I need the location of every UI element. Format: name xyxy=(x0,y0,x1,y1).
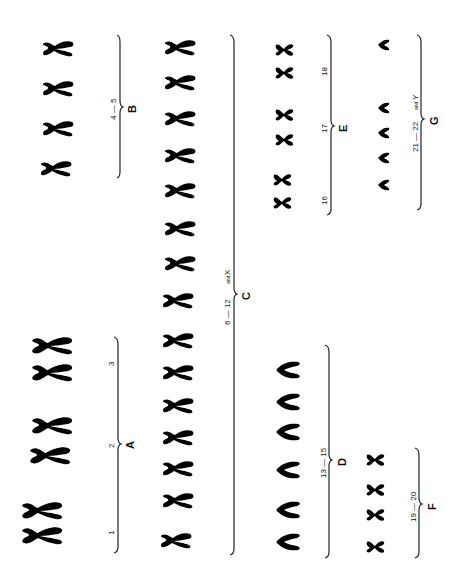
label-e-letter: E xyxy=(337,125,349,132)
chromosome-15b xyxy=(277,394,300,411)
label-g-letter: G xyxy=(428,116,440,125)
label-c-x: X xyxy=(223,269,232,275)
label-g-and: and xyxy=(413,101,419,110)
chromosome-4b xyxy=(43,81,74,96)
chromosome-3a xyxy=(32,337,72,354)
chromosome-c11 xyxy=(163,398,194,413)
chromosome-1a xyxy=(22,502,62,519)
label-e-16: 16 xyxy=(320,196,329,205)
chromosome-c12 xyxy=(163,430,194,445)
label-a-3: 3 xyxy=(107,361,116,366)
chromosome-15a xyxy=(277,362,300,379)
chromosome-19a xyxy=(367,509,385,521)
chromosome-20b xyxy=(367,484,385,496)
chromosome-c5 xyxy=(165,183,196,198)
label-c-letter: C xyxy=(240,292,252,300)
label-e-18: 18 xyxy=(320,67,329,76)
chromosome-c10 xyxy=(163,365,194,380)
label-g-y: Y xyxy=(411,94,420,100)
chromosome-18b xyxy=(276,67,294,79)
chromosome-c3 xyxy=(165,111,196,126)
chromosome-13a xyxy=(277,502,300,519)
group-a-chromosomes xyxy=(22,337,72,544)
chromosome-c2 xyxy=(165,75,196,90)
chromosome-16b xyxy=(274,197,292,209)
label-e-17: 17 xyxy=(320,124,329,133)
chromosome-1b xyxy=(22,527,62,544)
group-f-chromosomes xyxy=(367,454,385,553)
label-a-letter: A xyxy=(124,441,136,449)
chromosome-2b xyxy=(30,447,70,464)
chromosome-4a xyxy=(43,41,74,56)
chromosome-21b xyxy=(378,180,389,191)
chromosome-5b xyxy=(41,161,72,176)
karyotype-diagram: 4 — 5 B 3 2 1 A 6 — 12 and X C 18 xyxy=(0,0,466,577)
chromosome-2a xyxy=(32,417,72,434)
label-d-range: 13 — 15 xyxy=(319,447,328,478)
chromosome-14b xyxy=(277,462,300,479)
chromosome-21a xyxy=(378,153,389,164)
chromosome-14a xyxy=(277,424,300,441)
chromosome-c9 xyxy=(163,333,194,348)
chromosome-c1 xyxy=(165,40,196,55)
group-c-chromosomes xyxy=(161,40,196,548)
chromosome-c14 xyxy=(163,493,194,508)
label-a-1: 1 xyxy=(107,530,116,535)
label-f-letter: F xyxy=(426,503,438,510)
group-b-chromosomes xyxy=(41,41,74,176)
group-d-chromosomes xyxy=(277,362,300,551)
chromosome-3b xyxy=(32,364,72,381)
chromosome-17a xyxy=(276,109,294,121)
chromosome-5a xyxy=(43,121,74,136)
chromosome-13b xyxy=(277,534,300,551)
label-a-2: 2 xyxy=(107,443,116,448)
label-b-range: 4 — 5 xyxy=(109,98,118,120)
chromosome-22b xyxy=(378,128,389,139)
chromosome-c8 xyxy=(163,293,194,308)
chromosome-c13 xyxy=(163,461,194,476)
label-f-range: 19 — 20 xyxy=(409,491,418,522)
label-g-range: 21 — 22 xyxy=(411,121,420,152)
chromosome-16a xyxy=(274,174,292,186)
chromosome-c7 xyxy=(165,256,196,271)
label-c-and: and xyxy=(225,275,231,284)
chromosome-22a xyxy=(378,103,389,114)
chromosome-c4 xyxy=(165,148,196,163)
chromosome-c6 xyxy=(165,221,196,236)
chromosome-20a xyxy=(367,454,385,466)
bracket-c xyxy=(230,35,237,555)
group-e-chromosomes xyxy=(274,44,294,209)
chromosome-c15 xyxy=(161,533,192,548)
chromosome-17b xyxy=(276,134,294,146)
group-g-chromosomes xyxy=(378,40,389,191)
label-c-range: 6 — 12 xyxy=(223,299,232,325)
chromosome-y xyxy=(378,40,389,51)
label-d-letter: D xyxy=(336,458,348,466)
chromosome-19b xyxy=(367,541,385,553)
label-b-letter: B xyxy=(126,105,138,113)
chromosome-18a xyxy=(276,44,294,56)
